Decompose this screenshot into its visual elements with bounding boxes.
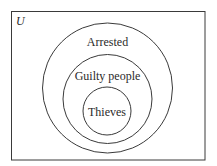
set-thieves-label: Thieves — [88, 105, 126, 119]
set-arrested-label: Arrested — [87, 35, 128, 49]
set-guilty-people-circle — [63, 55, 152, 144]
set-guilty-people-label: Guilty people — [75, 69, 141, 83]
universe-rectangle — [12, 12, 206, 161]
venn-diagram: U Arrested Guilty people Thieves — [0, 0, 217, 166]
universe-label: U — [16, 14, 26, 28]
